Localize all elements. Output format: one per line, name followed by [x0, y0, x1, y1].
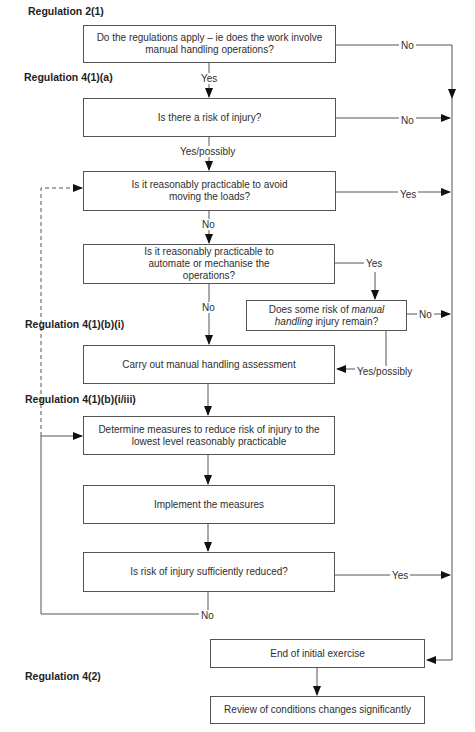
label-reduced-no: No — [199, 610, 216, 621]
box-implement-measures: Implement the measures — [83, 485, 335, 524]
label-remain-yes: Yes/possibly — [355, 366, 414, 377]
box-determine-measures: Determine measures to reduce risk of inj… — [83, 416, 335, 455]
box-end-initial-exercise: End of initial exercise — [210, 639, 425, 668]
risk-remain-text: Does some risk of manual handling injury… — [253, 304, 400, 328]
box-automate-mechanise: Is it reasonably practicable to automate… — [83, 244, 335, 284]
box-assessment: Carry out manual handling assessment — [83, 345, 335, 384]
label-automate-no: No — [200, 302, 217, 313]
box-sufficiently-reduced: Is risk of injury sufficiently reduced? — [83, 552, 335, 592]
label-avoid-yes: Yes — [398, 189, 418, 200]
regulation-4-1-a: Regulation 4(1)(a) — [24, 71, 113, 83]
regulation-2-1: Regulation 2(1) — [28, 5, 104, 17]
regulation-4-1-b-iii: Regulation 4(1)(b)(i/iii) — [25, 393, 136, 405]
label-apply-yes: Yes — [199, 73, 219, 84]
box-review-conditions: Review of conditions changes significant… — [210, 696, 425, 724]
box-avoid-moving-loads: Is it reasonably practicable to avoid mo… — [83, 171, 336, 211]
box-risk-of-injury: Is there a risk of injury? — [83, 98, 336, 137]
regulation-4-1-b-i: Regulation 4(1)(b)(i) — [25, 318, 124, 330]
label-risk-no: No — [399, 115, 416, 126]
label-reduced-yes: Yes — [390, 570, 410, 581]
label-avoid-no: No — [200, 219, 217, 230]
label-automate-yes: Yes — [364, 258, 384, 269]
label-risk-yes: Yes/possibly — [178, 146, 237, 157]
regulation-4-2: Regulation 4(2) — [25, 670, 101, 682]
label-remain-no: No — [417, 309, 434, 320]
box-risk-remain: Does some risk of manual handling injury… — [246, 300, 407, 331]
box-regulations-apply: Do the regulations apply – ie does the w… — [83, 25, 336, 63]
label-apply-no: No — [399, 40, 416, 51]
